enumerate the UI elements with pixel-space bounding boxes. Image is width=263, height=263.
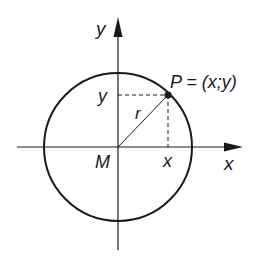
y-axis-arrow-icon [114,17,123,37]
point-label: P = (x;y) [170,72,237,92]
circle-diagram: y x M r P = (x;y) y x [0,0,263,263]
point-p [164,91,171,98]
y-projection-label: y [96,86,108,106]
x-axis-arrow-icon [224,143,243,152]
radius-label: r [135,104,142,123]
origin-label-m: M [95,152,110,172]
x-projection-label: x [162,151,173,171]
radius-line [118,95,168,147]
y-axis-label: y [94,18,107,39]
x-axis-label: x [223,153,235,174]
